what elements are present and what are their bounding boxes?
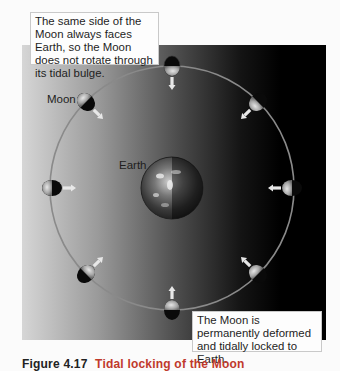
moon-label: Moon xyxy=(47,93,76,105)
callout-same-side-faces-earth: The same side of the Moon always faces E… xyxy=(30,12,159,65)
callout-tidally-locked: The Moon is permanently deformed and tid… xyxy=(192,311,322,352)
earth-globe xyxy=(141,157,203,219)
moon-phase-right xyxy=(268,180,302,196)
figure-number: Figure 4.17 xyxy=(22,357,88,371)
moon-phase-left xyxy=(42,180,76,196)
earth-label: Earth xyxy=(119,159,147,171)
moon-phase-bottom xyxy=(164,286,180,320)
moon-phase-top xyxy=(164,56,180,90)
moon-phase-upper-right xyxy=(235,89,270,124)
moon-phase-upper-left xyxy=(73,89,108,124)
figure-caption: Figure 4.17 Tidal locking of the Moon xyxy=(22,357,245,371)
figure-title: Tidal locking of the Moon xyxy=(95,357,244,371)
moon-phase-lower-left xyxy=(73,251,108,286)
moon-phase-lower-right xyxy=(235,251,270,286)
